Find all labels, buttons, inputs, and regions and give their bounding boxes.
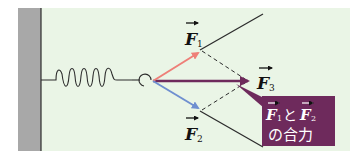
f1-subscript: 1 (197, 39, 203, 49)
f2-subscript: 2 (197, 134, 203, 144)
force-diagram: F 1 F 3 F 2 F 1 と F 2 の合力 (0, 0, 350, 163)
callout-resultant-text: の合力 (268, 126, 313, 144)
callout-f2-subscript: 2 (311, 114, 316, 123)
wall (18, 8, 41, 151)
callout-f1-subscript: 1 (277, 114, 282, 123)
callout-and-text: と (283, 107, 297, 123)
f3-subscript: 3 (269, 83, 275, 93)
